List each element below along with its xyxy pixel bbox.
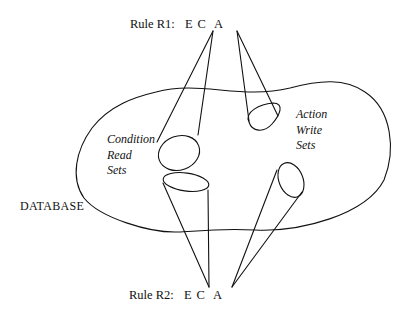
r2-condition-read-cone — [162, 170, 210, 287]
r1-action-write-cone — [237, 31, 280, 130]
rule-r1-label: Rule R1: ECA — [130, 18, 223, 31]
eca-rules-database-diagram: Rule R1: ECA Rule R2: ECA Condition Read… — [0, 0, 411, 309]
database-label: DATABASE — [20, 200, 84, 212]
action-label-line2: Write — [296, 123, 327, 139]
rule-r2-event: E — [184, 289, 192, 302]
rule-r2-name: Rule R2: — [129, 288, 174, 302]
action-label-line3: Sets — [296, 138, 327, 154]
r2-action-write-cone — [232, 159, 309, 287]
action-write-sets-label: Action Write Sets — [296, 107, 327, 154]
diagram-drawing — [0, 0, 411, 309]
rule-r2-action: A — [213, 289, 222, 302]
rule-r1-name: Rule R1: — [130, 17, 175, 31]
r1-condition-read-cone — [153, 31, 213, 176]
action-label-line1: Action — [296, 107, 327, 123]
condition-read-sets-label: Condition Read Sets — [107, 132, 155, 179]
condition-label-line2: Read — [107, 148, 155, 164]
condition-label-line1: Condition — [107, 132, 155, 148]
rule-r1-condition: C — [198, 18, 206, 31]
rule-r2-condition: C — [197, 289, 205, 302]
rule-r1-event: E — [185, 18, 193, 31]
condition-label-line3: Sets — [107, 163, 155, 179]
rule-r2-label: Rule R2: ECA — [129, 289, 222, 302]
rule-r1-action: A — [214, 18, 223, 31]
